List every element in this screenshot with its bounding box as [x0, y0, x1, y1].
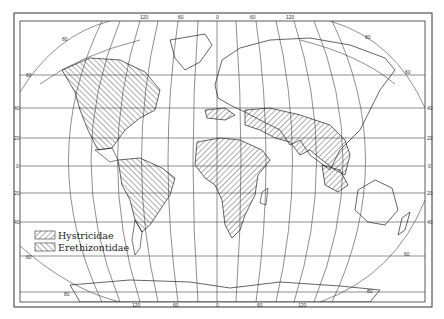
legend: Hystricidae Erethizontidae: [35, 230, 130, 253]
lat-label: 20: [14, 190, 20, 196]
arc-label: 60: [404, 251, 410, 257]
lat-label: 20: [427, 190, 433, 196]
lon-label: 60: [257, 302, 263, 308]
legend-label-erethizontidae: Erethizontidae: [58, 242, 130, 253]
lon-label: 0: [216, 14, 219, 20]
lat-label: 20: [427, 135, 433, 141]
map-body: [20, 21, 425, 302]
range-north-america: [62, 58, 160, 150]
arc-label: 80: [365, 34, 371, 40]
hystricidae-range: [195, 108, 350, 238]
lon-label: 60: [250, 14, 256, 20]
arc-label: 80: [64, 291, 70, 297]
range-africa: [195, 138, 270, 238]
legend-swatch-erethizontidae: [35, 243, 55, 251]
lon-label: 120: [132, 302, 141, 308]
lon-label: 120: [140, 14, 149, 20]
lat-label: 0: [16, 163, 19, 169]
lon-label: 60: [173, 302, 179, 308]
lat-label: 20: [14, 135, 20, 141]
range-south-america: [118, 158, 175, 232]
lat-label: 40: [14, 219, 20, 225]
arc-label: 60: [405, 69, 411, 75]
lat-label: 40: [427, 219, 433, 225]
arc-label: 60: [26, 72, 32, 78]
legend-swatch-hystricidae: [35, 231, 55, 239]
australia: [355, 180, 398, 225]
lon-label: 60: [178, 14, 184, 20]
top-longitude-labels: 120 60 0 60 120: [140, 14, 295, 20]
lat-label: 40: [14, 105, 20, 111]
arc-label: 80: [367, 288, 373, 294]
lat-label: 40: [427, 105, 433, 111]
lon-label: 120: [286, 14, 295, 20]
new-zealand: [398, 212, 410, 235]
legend-label-hystricidae: Hystricidae: [58, 230, 114, 241]
greenland: [170, 34, 212, 70]
lon-label: 0: [216, 302, 219, 308]
arc-label: 60: [26, 254, 32, 260]
erethizontidae-range: [62, 58, 175, 232]
lat-label: 0: [428, 163, 431, 169]
lon-label: 120: [298, 302, 307, 308]
world-distribution-map: 120 60 0 60 120 120 60 0 60 120 40 20 0 …: [0, 0, 444, 319]
arc-label: 80: [62, 36, 68, 42]
range-south-europe: [205, 108, 235, 120]
left-latitude-labels: 40 20 0 20 40: [14, 105, 20, 225]
